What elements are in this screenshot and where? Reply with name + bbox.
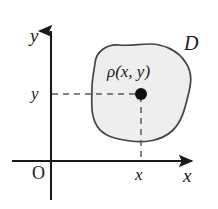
sample-point-dot — [135, 88, 147, 100]
x-axis-label: x — [183, 166, 191, 185]
origin-label: O — [32, 164, 45, 182]
y-axis-label: y — [30, 26, 38, 45]
x-tick-label: x — [135, 166, 143, 183]
lamina-density-figure: y x y x O D ρ(x, y) — [0, 0, 218, 209]
y-tick-label: y — [31, 85, 39, 102]
region-d-label: D — [184, 33, 198, 53]
density-function-label: ρ(x, y) — [107, 63, 150, 80]
